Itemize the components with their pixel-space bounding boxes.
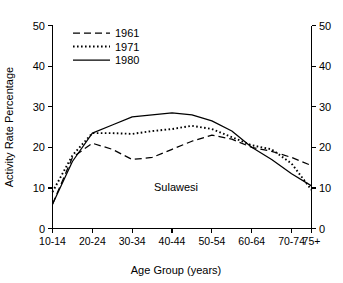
y-tick-label-left: 30 — [33, 101, 45, 113]
x-tick-label: 20-24 — [79, 235, 106, 247]
x-tick-label: 40-44 — [159, 235, 186, 247]
y-tick-label-left: 50 — [33, 20, 45, 32]
x-axis-tick-labels: 10-1420-2430-3440-4450-5460-6470-7475+ — [39, 235, 320, 247]
x-tick-label: 75+ — [303, 235, 321, 247]
axes-group — [53, 26, 312, 229]
y-tick-label-left: 40 — [33, 60, 45, 72]
chart-annotation-sulawesi: Sulawesi — [154, 181, 198, 193]
chart-container: 01020304050 01020304050 10-1420-2430-344… — [0, 0, 343, 283]
x-tick-label: 30-34 — [119, 235, 146, 247]
x-tick-label: 10-14 — [39, 235, 66, 247]
y-tick-label-left: 10 — [33, 182, 45, 194]
y-tick-label-right: 20 — [319, 141, 331, 153]
x-tick-label: 60-64 — [238, 235, 265, 247]
y-axis-left-tick-labels: 01020304050 — [33, 20, 45, 235]
activity-rate-line-chart: 01020304050 01020304050 10-1420-2430-344… — [0, 0, 343, 283]
y-tick-label-left: 0 — [39, 223, 45, 235]
y-axis-title: Activity Rate Percentage — [3, 67, 15, 187]
x-tick-label: 50-54 — [198, 235, 225, 247]
legend-label-1980: 1980 — [115, 54, 139, 66]
y-tick-label-right: 40 — [319, 60, 331, 72]
y-tick-label-right: 30 — [319, 101, 331, 113]
chart-legend: 196119711980 — [73, 27, 139, 66]
legend-label-1961: 1961 — [115, 27, 139, 39]
x-tick-label: 70-74 — [278, 235, 305, 247]
y-tick-label-right: 50 — [319, 20, 331, 32]
y-tick-label-right: 0 — [319, 223, 325, 235]
y-tick-label-right: 10 — [319, 182, 331, 194]
y-axis-right-tick-labels: 01020304050 — [319, 20, 331, 235]
series-line-1961 — [53, 135, 312, 204]
y-tick-label-left: 20 — [33, 141, 45, 153]
legend-label-1971: 1971 — [115, 41, 139, 53]
x-axis-title: Age Group (years) — [131, 264, 221, 276]
